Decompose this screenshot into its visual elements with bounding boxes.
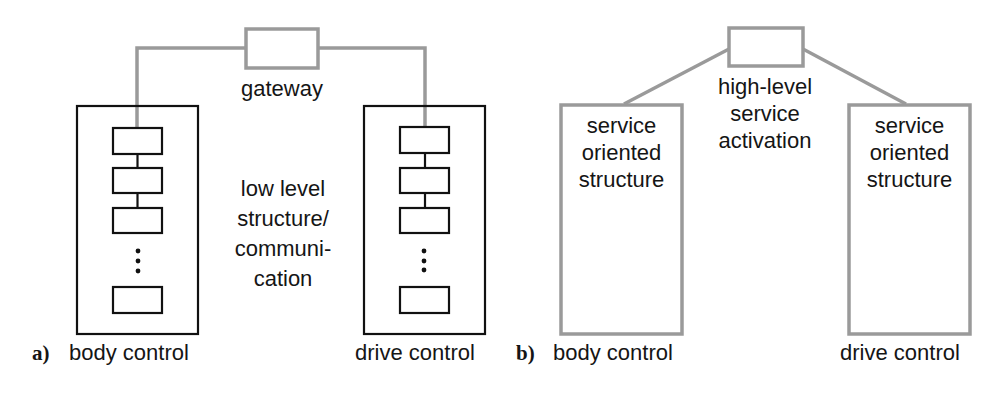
panel-a-tag: a) xyxy=(32,341,50,366)
service-gateway-box xyxy=(729,28,803,66)
drive-control-ecu-chain xyxy=(400,127,449,313)
label-line: service xyxy=(700,100,830,127)
body-control-label: body control xyxy=(553,338,673,368)
architecture-diagram xyxy=(0,0,1003,394)
vertical-ellipsis-icon xyxy=(422,249,427,273)
ecu-box xyxy=(113,287,162,313)
label-line: structure xyxy=(849,166,970,193)
label-line: communi- xyxy=(208,234,358,264)
label-line: oriented xyxy=(561,139,682,166)
ecu-box xyxy=(400,168,449,193)
label-line: cation xyxy=(208,264,358,294)
gateway-line-right xyxy=(318,48,425,127)
ecu-box xyxy=(113,208,162,233)
ecu-box xyxy=(113,168,162,193)
label-line: high-level xyxy=(700,73,830,100)
panel-b-tag: b) xyxy=(516,341,535,366)
high-level-service-activation-label: high-level service activation xyxy=(700,73,830,154)
label-line: low level xyxy=(208,174,358,204)
label-line: oriented xyxy=(849,139,970,166)
label-line: structure/ xyxy=(208,204,358,234)
label-line: structure xyxy=(561,166,682,193)
gateway-line-left xyxy=(137,48,245,127)
gateway-box xyxy=(246,29,318,68)
label-line: activation xyxy=(700,127,830,154)
label-line: service xyxy=(561,112,682,139)
right-service-oriented-structure-label: service oriented structure xyxy=(849,112,970,193)
ecu-box xyxy=(400,127,449,153)
drive-control-label: drive control xyxy=(840,338,960,368)
drive-control-label: drive control xyxy=(355,338,475,368)
low-level-communication-label: low level structure/ communi- cation xyxy=(208,174,358,294)
ecu-box xyxy=(400,287,449,313)
label-line: service xyxy=(849,112,970,139)
vertical-ellipsis-icon xyxy=(136,249,141,274)
left-service-oriented-structure-label: service oriented structure xyxy=(561,112,682,193)
gateway-label: gateway xyxy=(230,74,334,104)
body-control-label: body control xyxy=(69,338,189,368)
ecu-box xyxy=(400,208,449,233)
ecu-box xyxy=(113,128,162,154)
body-control-ecu-chain xyxy=(113,128,162,313)
